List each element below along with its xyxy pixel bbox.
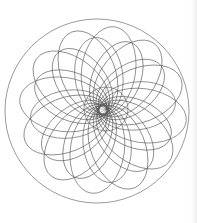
petal-loop bbox=[28, 86, 111, 143]
spirograph-lines bbox=[5, 19, 191, 203]
spirograph-drawing bbox=[0, 0, 197, 223]
petal-loop bbox=[70, 35, 127, 118]
outer-circle bbox=[5, 19, 189, 203]
page-edge bbox=[191, 0, 197, 223]
